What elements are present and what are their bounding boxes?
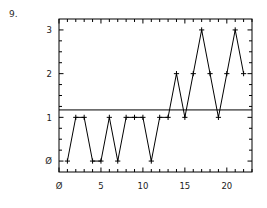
data-point-marker (182, 115, 187, 120)
data-line (67, 30, 243, 161)
data-point-marker (132, 115, 137, 120)
data-point-marker (149, 158, 154, 163)
data-point-marker (191, 71, 196, 76)
y-tick-label: 3 (47, 25, 52, 35)
data-point-marker (82, 115, 87, 120)
y-tick-label: Ø (45, 156, 52, 166)
line-chart: Ø5101520Ø123 (0, 0, 267, 208)
data-point-marker (157, 115, 162, 120)
data-point-marker (98, 158, 103, 163)
data-point-marker (124, 115, 129, 120)
data-point-marker (115, 158, 120, 163)
data-point-marker (241, 71, 246, 76)
y-tick-label: 1 (47, 113, 52, 123)
x-tick-label: 10 (137, 181, 148, 191)
data-point-marker (216, 115, 221, 120)
data-point-marker (73, 115, 78, 120)
x-tick-label: 20 (221, 181, 232, 191)
x-tick-label: Ø (56, 181, 63, 191)
data-point-marker (90, 158, 95, 163)
x-tick-label: 15 (179, 181, 190, 191)
figure-page: 9. Ø5101520Ø123 (0, 0, 267, 208)
data-point-marker (174, 71, 179, 76)
x-tick-label: 5 (98, 181, 103, 191)
data-point-marker (165, 115, 170, 120)
data-point-marker (107, 115, 112, 120)
data-point-marker (65, 158, 70, 163)
y-tick-label: 2 (47, 69, 52, 79)
data-point-marker (224, 71, 229, 76)
data-point-marker (199, 27, 204, 32)
data-point-marker (140, 115, 145, 120)
data-point-marker (233, 27, 238, 32)
data-point-marker (207, 71, 212, 76)
